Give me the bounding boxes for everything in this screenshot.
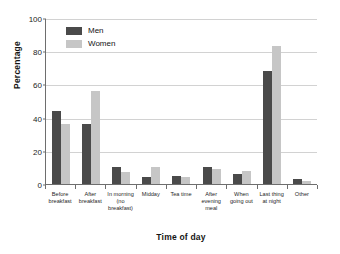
y-tick-label: 60: [33, 81, 42, 90]
y-tick-label: 20: [33, 147, 42, 156]
x-axis-label-line: breakfast: [76, 198, 104, 205]
bar-men: [233, 174, 242, 184]
x-tick-mark: [45, 185, 46, 189]
x-axis-label-line: After: [197, 191, 225, 198]
x-axis-label-line: When: [227, 191, 255, 198]
bar-men: [203, 167, 212, 184]
bar-women: [212, 169, 221, 184]
x-axis-label-line: going out: [227, 198, 255, 205]
x-axis-label: Beforebreakfast: [45, 191, 75, 213]
x-axis-label-line: evening: [197, 198, 225, 205]
bar-group: [166, 19, 196, 184]
x-axis-label-line: breakfast): [106, 205, 134, 212]
bar-group: [197, 19, 227, 184]
x-axis-label-line: breakfast: [46, 198, 74, 205]
bar-men: [112, 167, 121, 184]
x-axis-label-line: meal: [197, 205, 225, 212]
bar-men: [142, 177, 151, 184]
x-axis-label: Last thingat night: [257, 191, 287, 213]
y-axis-title: Percentage: [12, 20, 22, 110]
bar-men: [82, 124, 91, 184]
legend-swatch-women: [66, 40, 82, 48]
x-tick-mark: [136, 185, 137, 189]
bar-women: [302, 181, 311, 184]
x-axis-ticks: [45, 185, 317, 189]
x-tick-mark: [166, 185, 167, 189]
x-axis-label: Other: [287, 191, 317, 213]
bar-women: [151, 167, 160, 184]
y-tick-label: 0: [38, 181, 42, 190]
x-axis-label: In morning(nobreakfast): [105, 191, 135, 213]
x-axis-label-line: In morning: [106, 191, 134, 198]
x-axis-label-line: Midday: [137, 191, 165, 198]
bar-men: [263, 71, 272, 184]
bar-chart: Percentage 020406080100 BeforebreakfastA…: [0, 0, 340, 254]
x-tick-mark: [287, 185, 288, 189]
bar-men: [293, 179, 302, 184]
x-tick-mark: [196, 185, 197, 189]
x-axis-title: Time of day: [45, 232, 317, 242]
x-axis-label-line: Tea time: [167, 191, 195, 198]
bar-men: [52, 111, 61, 184]
x-tick-mark: [75, 185, 76, 189]
x-axis-label: Whengoing out: [226, 191, 256, 213]
y-tick-label: 40: [33, 114, 42, 123]
legend-item-women: Women: [66, 39, 115, 48]
x-axis-label-line: After: [76, 191, 104, 198]
x-tick-mark: [105, 185, 106, 189]
x-axis-label: Aftereveningmeal: [196, 191, 226, 213]
bar-group: [227, 19, 257, 184]
bar-group: [136, 19, 166, 184]
x-axis-label-line: at night: [258, 198, 286, 205]
x-axis-label: Tea time: [166, 191, 196, 213]
x-tick-mark: [226, 185, 227, 189]
x-axis-label: Afterbreakfast: [75, 191, 105, 213]
x-tick-mark: [257, 185, 258, 189]
x-axis-label-line: Before: [46, 191, 74, 198]
x-tick-mark: [317, 185, 318, 189]
bar-women: [121, 172, 130, 184]
x-axis-label-line: Other: [288, 191, 316, 198]
chart-legend: MenWomen: [66, 26, 115, 52]
y-tick-label: 100: [29, 15, 42, 24]
bar-women: [272, 46, 281, 184]
legend-swatch-men: [66, 27, 82, 35]
x-axis-label-line: Last thing: [258, 191, 286, 198]
bar-group: [257, 19, 287, 184]
x-axis-label: Midday: [136, 191, 166, 213]
x-axis-label-line: (no: [106, 198, 134, 205]
bar-women: [181, 177, 190, 184]
bar-women: [61, 124, 70, 184]
y-tick-label: 80: [33, 48, 42, 57]
bar-group: [287, 19, 317, 184]
bar-women: [242, 171, 251, 184]
legend-label: Men: [88, 26, 104, 35]
x-axis-labels: BeforebreakfastAfterbreakfastIn morning(…: [45, 191, 317, 213]
bar-men: [172, 176, 181, 184]
legend-item-men: Men: [66, 26, 115, 35]
bar-women: [91, 91, 100, 184]
legend-label: Women: [88, 39, 115, 48]
